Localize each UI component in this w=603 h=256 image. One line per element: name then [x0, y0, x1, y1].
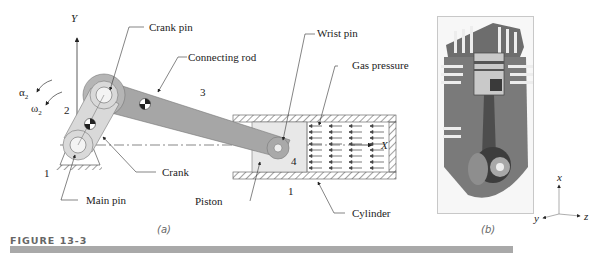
axis-z-label: z	[583, 210, 589, 222]
sublabel-a: (a)	[157, 224, 171, 235]
wrist-pin	[274, 144, 282, 152]
x-axis-label: X	[380, 139, 389, 151]
figure-caption: FIGURE 13-3	[10, 235, 87, 246]
link-number-crank: 2	[64, 104, 70, 116]
callout-connecting-rod: Connecting rod	[188, 51, 257, 63]
gas-pressure-arrows	[309, 125, 384, 170]
alpha-arrow-icon	[37, 80, 52, 92]
callout-piston: Piston	[195, 195, 223, 207]
link-number-ground-left: 1	[44, 167, 50, 179]
cg-symbol-rod	[140, 99, 151, 110]
link-number-rod: 3	[200, 86, 206, 98]
xyz-axes: x y z	[530, 165, 603, 225]
caption-bar	[10, 246, 513, 253]
link-number-ground-bottom: 1	[288, 185, 294, 197]
omega-arrow-icon	[46, 92, 62, 105]
callout-crank: Crank	[162, 166, 189, 178]
alpha-label: α2	[19, 86, 29, 101]
omega-label: ω2	[31, 102, 42, 117]
link-number-piston: 4	[291, 155, 297, 167]
y-axis-label: Y	[71, 12, 79, 24]
cg-symbol-crank	[85, 119, 96, 130]
axis-x-label: x	[556, 171, 562, 183]
callout-cylinder: Cylinder	[352, 207, 391, 219]
callout-wrist-pin: Wrist pin	[317, 27, 358, 39]
sublabel-b: (b)	[481, 224, 495, 235]
engine-cutaway-photo	[437, 16, 534, 214]
slider-crank-diagram: Y X	[0, 0, 430, 235]
callout-gas-pressure: Gas pressure	[352, 59, 409, 71]
callout-main-pin: Main pin	[86, 194, 127, 206]
callout-crank-pin: Crank pin	[149, 21, 193, 33]
axis-y-label: y	[533, 212, 539, 224]
